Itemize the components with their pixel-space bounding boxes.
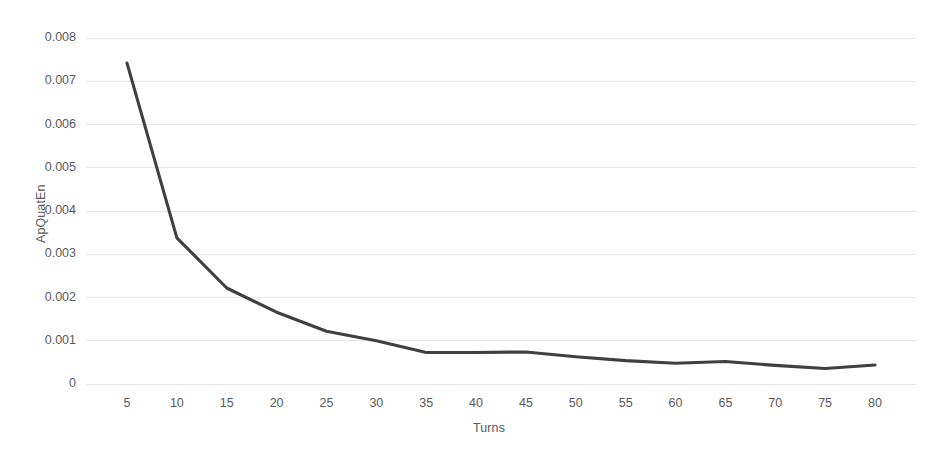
y-tick-label: 0.003 [0, 246, 76, 260]
y-tick-label: 0.004 [0, 203, 76, 217]
x-tick-label: 30 [356, 396, 396, 410]
x-tick-label: 5 [107, 396, 147, 410]
line-chart-canvas [0, 0, 943, 458]
y-tick-label: 0.002 [0, 290, 76, 304]
data-series-group [127, 63, 875, 368]
x-tick-label: 70 [755, 396, 795, 410]
x-tick-label: 50 [556, 396, 596, 410]
y-tick-label: 0.008 [0, 30, 76, 44]
x-tick-label: 35 [406, 396, 446, 410]
y-tick-label: 0.006 [0, 117, 76, 131]
y-tick-label: 0.001 [0, 333, 76, 347]
y-tick-label: 0.007 [0, 73, 76, 87]
x-tick-label: 25 [306, 396, 346, 410]
x-tick-label: 15 [207, 396, 247, 410]
x-tick-label: 80 [855, 396, 895, 410]
x-tick-label: 75 [805, 396, 845, 410]
x-axis-title: Turns [473, 421, 505, 435]
x-tick-label: 65 [705, 396, 745, 410]
x-tick-label: 40 [456, 396, 496, 410]
x-tick-label: 20 [257, 396, 297, 410]
y-tick-label: 0 [0, 376, 76, 390]
gridlines-group [86, 38, 916, 384]
x-tick-label: 45 [506, 396, 546, 410]
data-line-apquaten [127, 63, 875, 368]
x-tick-label: 10 [157, 396, 197, 410]
x-tick-label: 55 [606, 396, 646, 410]
y-tick-label: 0.005 [0, 160, 76, 174]
x-tick-label: 60 [656, 396, 696, 410]
chart-container: ApQuatEn Turns 00.0010.0020.0030.0040.00… [0, 0, 943, 458]
